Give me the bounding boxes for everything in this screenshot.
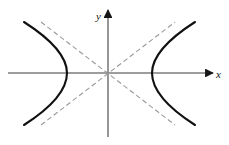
x-axis-label: x [215,68,221,80]
hyperbola-figure: x y [0,0,229,145]
figure-canvas: x y [0,0,229,145]
y-axis-label: y [95,10,101,22]
